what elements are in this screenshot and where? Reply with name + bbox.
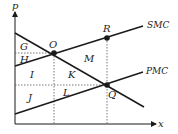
point-R-label: R	[102, 23, 111, 34]
pmc-label: PMC	[145, 66, 168, 76]
demand-curve	[15, 33, 144, 107]
smc-label: SMC	[147, 20, 169, 30]
pmc-curve	[15, 72, 143, 114]
point-O	[51, 50, 57, 56]
point-R	[104, 35, 110, 41]
point-O-label: O	[49, 39, 57, 50]
x-axis-label: x	[158, 118, 164, 129]
externality-diagram: p x SMC PMC O R Q G H I J K L M	[0, 0, 178, 134]
region-J: J	[26, 92, 33, 103]
point-Q	[104, 82, 110, 88]
y-axis-label: p	[12, 0, 19, 11]
region-L: L	[62, 87, 70, 98]
region-M: M	[83, 53, 95, 64]
region-G: G	[20, 41, 28, 52]
point-Q-label: Q	[108, 89, 116, 100]
region-H: H	[19, 54, 29, 65]
region-K: K	[67, 69, 76, 80]
region-I: I	[29, 69, 35, 80]
smc-curve	[15, 26, 143, 66]
